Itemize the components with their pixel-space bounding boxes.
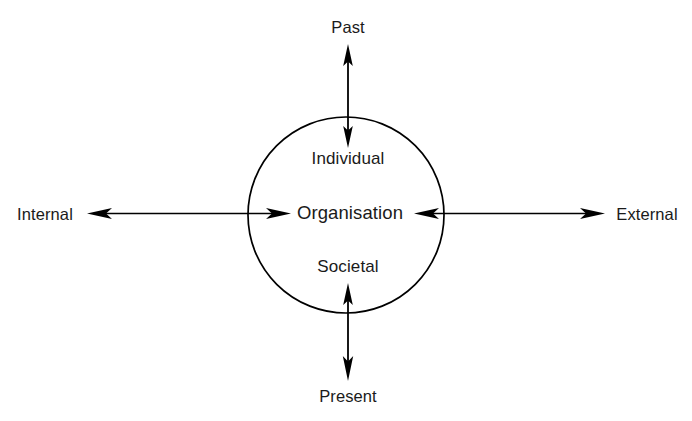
- axis-label-top-past: Past: [331, 19, 364, 36]
- level-label-societal: Societal: [317, 258, 378, 275]
- horizontal-axis-right-group: [414, 208, 605, 219]
- level-label-organisation: Organisation: [297, 204, 403, 223]
- diagram-canvas: Past Present Internal External Individua…: [0, 0, 692, 421]
- horizontal-axis-left-group: [87, 208, 291, 219]
- axis-label-bottom-present: Present: [319, 388, 377, 405]
- level-label-individual: Individual: [312, 150, 385, 167]
- axis-label-right-external: External: [616, 206, 677, 223]
- axis-label-left-internal: Internal: [17, 206, 73, 223]
